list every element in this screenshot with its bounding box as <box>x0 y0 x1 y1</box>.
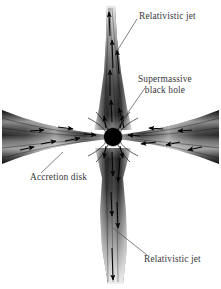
label-supermassive-line2: black hole <box>138 85 192 96</box>
label-relativistic-jet-bottom: Relativistic jet <box>144 254 201 265</box>
label-relativistic-jet-top: Relativistic jet <box>139 11 196 22</box>
label-supermassive-line1: Supermassive <box>138 74 192 85</box>
label-accretion-disk: Accretion disk <box>30 172 87 183</box>
diagram-canvas <box>0 0 221 289</box>
core-region <box>83 112 143 162</box>
supermassive-black-hole <box>104 128 122 146</box>
astrophysics-diagram-figure: Relativistic jet Supermassive black hole… <box>0 0 221 289</box>
label-supermassive-black-hole: Supermassive black hole <box>138 74 192 97</box>
leader-jet-top <box>117 19 137 51</box>
leader-accretion-disk <box>41 152 63 173</box>
